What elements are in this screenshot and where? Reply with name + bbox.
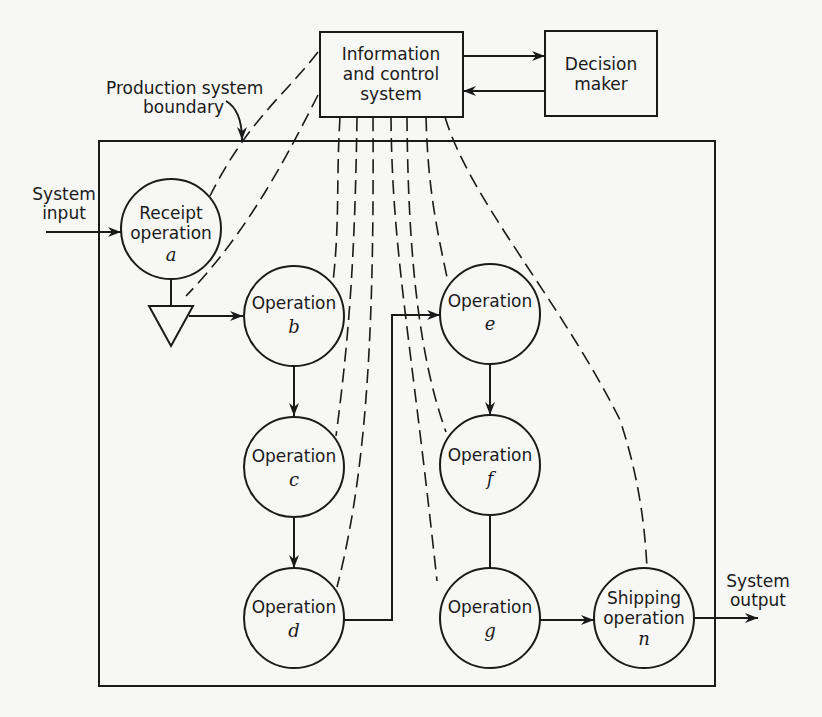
node-g-line1: Operation (448, 597, 533, 617)
boundary-label-line1: Production system (106, 78, 263, 98)
node-b-operation[interactable]: Operation b (244, 266, 344, 366)
production-system-diagram: Production system boundary Information a… (0, 0, 822, 717)
node-c-operation[interactable]: Operation c (244, 417, 344, 517)
decision-box-line1: Decision (565, 54, 637, 74)
system-input-label-line2: input (42, 203, 86, 223)
boundary-label-line2: boundary (143, 97, 224, 117)
node-a-receipt-operation[interactable]: Receipt operation a (121, 179, 221, 279)
node-n-line2: operation (603, 608, 685, 628)
node-n-line1: Shipping (607, 588, 681, 608)
node-g-operation[interactable]: Operation g (440, 568, 540, 668)
node-e-line1: Operation (448, 291, 533, 311)
node-c-line1: Operation (252, 446, 337, 466)
node-n-letter: n (638, 628, 650, 649)
node-b-letter: b (288, 316, 300, 337)
node-e-operation[interactable]: Operation e (440, 264, 540, 364)
system-input-label-line1: System (32, 184, 95, 204)
node-a-line1: Receipt (139, 203, 203, 223)
node-c-letter: c (289, 469, 299, 490)
boundary-pointer-arrow (226, 101, 242, 140)
node-f-operation[interactable]: Operation f (440, 415, 540, 515)
d-to-e-arrow (344, 315, 440, 620)
storage-triangle-icon (149, 306, 193, 346)
node-d-letter: d (288, 620, 300, 641)
system-output-label-line2: output (730, 590, 786, 610)
node-d-operation[interactable]: Operation d (244, 568, 344, 668)
node-b-line1: Operation (252, 293, 337, 313)
info-box-line2: and control (343, 64, 439, 84)
node-g-letter: g (484, 620, 496, 641)
node-a-letter: a (166, 244, 177, 265)
node-a-line2: operation (130, 223, 212, 243)
node-f-line1: Operation (448, 445, 533, 465)
system-output-label-line1: System (726, 571, 789, 591)
decision-box-line2: maker (574, 74, 628, 94)
info-box-line1: Information (342, 44, 440, 64)
node-e-letter: e (485, 313, 496, 334)
node-n-shipping-operation[interactable]: Shipping operation n (594, 568, 694, 668)
info-box-line3: system (360, 84, 421, 104)
node-d-line1: Operation (252, 597, 337, 617)
